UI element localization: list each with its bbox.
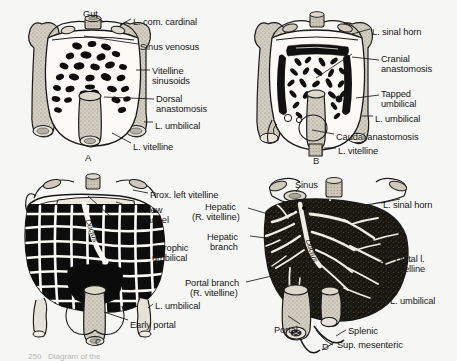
cranial-anastomosis-band-b [287,44,349,56]
panel-letter-d: D [322,341,329,352]
label-a-dorsal: Dorsal [156,94,182,104]
label-d-portal-branch: Portal branch [185,278,239,288]
label-b-l-umbilical: L. umbilical [375,114,420,124]
label-d-hepatic-r-vitelline: (R. vitelline) [192,212,240,222]
label-b-l-sinal-horn: L. sinal horn [372,27,421,37]
umbilical-lumen-left-c [33,331,45,337]
label-d-hepatic: Hepatic [205,202,236,212]
dorsal-anastomosis-a [79,91,101,100]
sup-mesenteric-vein-d [300,338,320,353]
label-d-splenic: Splenic [348,326,378,336]
vessel-lumen-inner-a-left [37,128,49,134]
label-b-anastomosis: anastomosis [381,64,432,74]
panel-letter-a: A [85,152,91,163]
stem-cap-b [307,90,325,98]
label-d-sinus: Sinus [295,180,318,190]
central-vitelline-stem-b [307,92,326,150]
label-a-vitelline: Vitelline [152,66,184,76]
vessel-lumen-inner-a-right [130,128,142,134]
label-c-atrophic: Atrophic [155,243,188,253]
label-d-sup-mesenteric: Sup. mesenteric [337,340,403,350]
label-b-umbilical: umbilical [381,99,416,109]
label-b-tapped: Tapped [381,89,411,99]
vessel-lumen-b-left [260,133,278,143]
distal-vitelline-cap-d [321,287,339,295]
gut-cap-b [310,12,324,18]
label-a-sinus-venosus: Sinus venosus [140,42,199,52]
label-a-l-com-cardinal: L. com. cardinal [133,17,197,27]
label-c-new: New [144,205,162,215]
portal-cap-d [284,285,308,295]
label-d-distal-vitelline: vitelline [395,264,425,274]
gut-cap-d [326,178,342,184]
panel-letter-b: B [313,155,319,166]
prox-left-vitelline-c [128,178,148,191]
distal-vitelline-lumen-d [321,317,337,326]
hepatic-r-vitelline-cap-d [268,179,288,193]
panel-letter-c: C [95,336,102,347]
gut-cap-c [86,174,100,180]
label-d-portal: Portal [274,325,298,335]
label-d-portal-branch-r-vitelline: (R. vitelline) [190,288,238,298]
label-c-channel: channel [137,215,169,225]
label-a-sinusoids: sinusoids [152,76,190,86]
label-d-distal-l: Distal l. [395,254,425,264]
left-sinal-horn-cap-d [388,179,408,193]
arch-cap-left-c [42,178,62,191]
label-b-caudal-anastomosis: Caudal anastomosis [336,132,418,142]
label-c-early-portal: Early portal [130,320,176,330]
label-c-l-umbilical: L. umbilical [155,301,200,311]
portal-stem-cap-c [84,286,106,295]
vitelline-lumen-inner-a [84,138,95,143]
label-a-gut: Gut [83,9,98,19]
label-a-anastomosis: anastomosis [156,104,207,114]
label-a-l-vitelline: L. vitelline [133,142,173,152]
label-c-umbilical: umbilical [152,253,187,263]
umbilical-lumen-right-c [139,331,151,337]
panel-a-drawing [29,15,154,147]
label-d-l-sinal-horn: L. sinal horn [383,200,432,210]
label-d-hepatic-branch-2: branch [210,242,238,252]
sinus-lumen-d [289,193,301,198]
label-b-cranial: Cranial [381,54,410,64]
figure-caption-cropped: 250 Diagram of the [28,352,100,361]
label-d-l-umbilical: L. umbilical [390,296,435,306]
label-d-hepatic-branch-1: Hepatic [207,232,238,242]
label-b-l-vitelline: L. vitelline [338,146,378,156]
label-c-prox-left-vitelline: Prox. left vitelline [150,190,218,200]
label-a-l-umbilical: L. umbilical [155,121,200,131]
